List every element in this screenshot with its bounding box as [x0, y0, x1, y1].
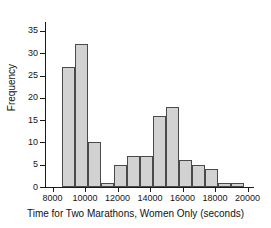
- histogram-figure: 05101520253035 8000100001200014000160001…: [0, 0, 271, 228]
- y-tick-30: [40, 53, 45, 54]
- histogram-bar: [218, 183, 231, 187]
- histogram-bar: [166, 107, 179, 187]
- y-tick-label-5: 5: [0, 160, 38, 169]
- y-tick-label-0: 0: [0, 183, 38, 192]
- y-tick-15: [40, 120, 45, 121]
- x-tick-label-12000: 12000: [105, 193, 130, 203]
- histogram-bar: [153, 116, 166, 187]
- y-axis-title: Frequency: [6, 33, 17, 143]
- y-tick-0: [40, 187, 45, 188]
- x-tick-label-16000: 16000: [170, 193, 195, 203]
- x-axis-title: Time for Two Marathons, Women Only (seco…: [0, 208, 271, 219]
- y-tick-25: [40, 76, 45, 77]
- x-tick-14000: [150, 188, 151, 192]
- histogram-bar: [140, 156, 153, 187]
- histogram-bar: [114, 165, 127, 187]
- x-tick-label-14000: 14000: [137, 193, 162, 203]
- histogram-bar: [62, 67, 75, 187]
- histogram-bars: [46, 22, 254, 187]
- histogram-bar: [205, 169, 218, 187]
- x-tick-12000: [118, 188, 119, 192]
- x-tick-8000: [53, 188, 54, 192]
- x-tick-label-20000: 20000: [235, 193, 260, 203]
- x-tick-20000: [248, 188, 249, 192]
- x-tick-10000: [85, 188, 86, 192]
- y-tick-35: [40, 31, 45, 32]
- histogram-bar: [101, 183, 114, 187]
- x-tick-16000: [183, 188, 184, 192]
- x-tick-18000: [215, 188, 216, 192]
- x-tick-label-18000: 18000: [202, 193, 227, 203]
- y-tick-5: [40, 165, 45, 166]
- histogram-bar: [75, 44, 88, 187]
- histogram-bar: [231, 183, 244, 187]
- x-tick-label-10000: 10000: [72, 193, 97, 203]
- x-tick-label-8000: 8000: [42, 193, 62, 203]
- histogram-bar: [179, 160, 192, 187]
- y-tick-20: [40, 98, 45, 99]
- y-tick-10: [40, 142, 45, 143]
- histogram-bar: [127, 156, 140, 187]
- histogram-bar: [192, 165, 205, 187]
- histogram-bar: [88, 142, 101, 187]
